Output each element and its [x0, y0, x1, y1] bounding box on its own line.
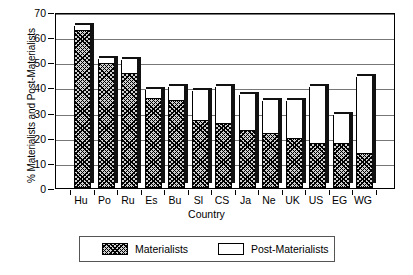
legend-swatch	[102, 243, 128, 255]
bar-segment-materialists	[169, 100, 184, 187]
bar-slot	[73, 14, 95, 188]
bar-segment-materialists	[334, 143, 349, 187]
bar-slot	[308, 14, 330, 188]
bar-segment-post-materialists	[357, 76, 372, 153]
x-tick-label-wg: WG	[346, 194, 380, 207]
bar-eg	[333, 115, 350, 188]
bar-segment-post-materialists	[334, 114, 349, 143]
bar-segment-materialists	[193, 120, 208, 187]
bar-slot	[285, 14, 307, 188]
bar-segment-post-materialists	[240, 94, 255, 130]
y-tick-mark	[48, 164, 54, 165]
bar-es	[145, 90, 162, 188]
bar-slot	[167, 14, 189, 188]
bar-slot	[261, 14, 283, 188]
bar-slot	[238, 14, 260, 188]
bar-slot	[120, 14, 142, 188]
x-tick-mark	[376, 190, 377, 195]
legend-label: Post-Materialists	[251, 243, 329, 255]
legend-item-materialists: Materialists	[102, 243, 188, 255]
bar-wg	[356, 77, 373, 188]
bar-slot	[144, 14, 166, 188]
y-tick-label: 10	[22, 159, 46, 169]
bar-segment-post-materialists	[193, 90, 208, 120]
plot-area	[55, 13, 395, 189]
y-tick-label: 70	[22, 8, 46, 18]
legend-item-post-materialists: Post-Materialists	[218, 243, 329, 255]
y-tick-label: 20	[22, 134, 46, 144]
y-tick-label: 0	[22, 184, 46, 194]
bar-slot	[97, 14, 119, 188]
bar-segment-materialists	[263, 133, 278, 187]
bar-segment-post-materialists	[216, 86, 231, 122]
bar-segment-materialists	[122, 73, 137, 187]
bar-segment-materialists	[287, 138, 302, 187]
bar-bu	[168, 87, 185, 188]
bar-segment-post-materialists	[263, 100, 278, 133]
bar-segment-materialists	[99, 63, 114, 187]
y-tick-label: 40	[22, 83, 46, 93]
bar-series-group	[56, 14, 394, 188]
bar-segment-materialists	[75, 30, 90, 187]
bar-segment-materialists	[240, 130, 255, 187]
bar-us	[309, 87, 326, 188]
bar-sl	[192, 91, 209, 188]
bar-segment-materialists	[310, 143, 325, 187]
bar-slot	[214, 14, 236, 188]
bar-slot	[355, 14, 377, 188]
bar-cs	[215, 87, 232, 188]
legend-label: Materialists	[135, 243, 188, 255]
bar-uk	[286, 101, 303, 188]
bar-slot	[332, 14, 354, 188]
bar-segment-materialists	[357, 153, 372, 187]
bar-segment-post-materialists	[169, 86, 184, 100]
bar-segment-post-materialists	[310, 86, 325, 143]
bar-ru	[121, 60, 138, 188]
y-tick-label: 60	[22, 33, 46, 43]
chart-legend: MaterialistsPost-Materialists	[79, 236, 335, 262]
bar-segment-materialists	[146, 98, 161, 187]
y-tick-label: 30	[22, 109, 46, 119]
y-tick-mark	[48, 38, 54, 39]
bar-chart: % Materialists and Post-Materialists 010…	[0, 0, 413, 275]
bar-segment-post-materialists	[287, 100, 302, 138]
legend-swatch	[218, 243, 244, 255]
y-tick-label: 50	[22, 58, 46, 68]
bar-slot	[191, 14, 213, 188]
y-tick-mark	[48, 63, 54, 64]
y-tick-mark	[48, 114, 54, 115]
bar-po	[98, 59, 115, 188]
y-tick-mark	[48, 189, 54, 190]
y-tick-mark	[48, 139, 54, 140]
bar-segment-post-materialists	[146, 89, 161, 98]
bar-ja	[239, 95, 256, 188]
bar-segment-post-materialists	[122, 59, 137, 73]
x-axis-title: Country	[0, 208, 413, 220]
bar-ne	[262, 101, 279, 188]
bar-segment-materialists	[216, 123, 231, 187]
y-tick-mark	[48, 88, 54, 89]
y-tick-mark	[48, 13, 54, 14]
bar-hu	[74, 26, 91, 188]
